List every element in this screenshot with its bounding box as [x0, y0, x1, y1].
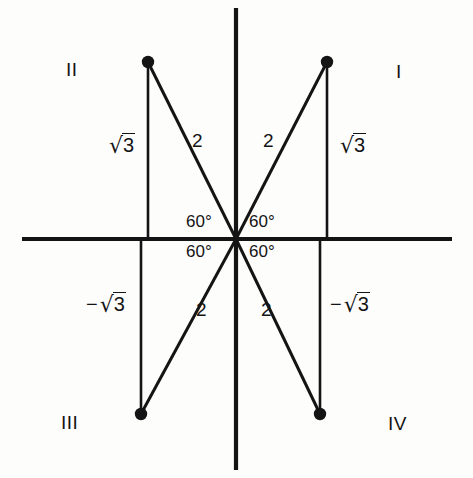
leg-label-quadrant-i: √3	[338, 133, 366, 156]
angle-label-upper-right: 60°	[249, 213, 275, 230]
radical-sign-icon: √	[344, 292, 358, 317]
hypotenuse-label-quadrant-iii: 2	[196, 300, 207, 319]
hypotenuse-label-quadrant-iv: 2	[261, 300, 272, 319]
vertex-dot-quadrant-iii	[135, 408, 147, 420]
vertex-dot-quadrant-ii	[142, 56, 154, 68]
vertex-dot-quadrant-i	[321, 56, 333, 68]
radicand-quadrant-i: 3	[353, 133, 366, 155]
radicand-quadrant-iii: 3	[113, 292, 126, 314]
radical-sign-icon: √	[109, 133, 123, 158]
radical-sign-icon: √	[340, 133, 354, 158]
radicand-quadrant-iv: 3	[357, 292, 370, 314]
hypotenuse-label-quadrant-i: 2	[263, 131, 274, 150]
leg-label-quadrant-ii: √3	[107, 133, 135, 156]
leg-label-quadrant-iii: −√3	[86, 292, 126, 315]
angle-label-lower-right: 60°	[249, 243, 275, 260]
vertex-dot-quadrant-iv	[314, 408, 326, 420]
radicand-quadrant-ii: 3	[122, 133, 135, 155]
quadrant-label-ii: II	[66, 60, 78, 79]
leg-sign-quadrant-iii: −	[86, 293, 98, 315]
quadrant-label-iii: III	[61, 413, 78, 432]
leg-sign-quadrant-iv: −	[330, 293, 342, 315]
radical-quadrant-ii: √3	[109, 133, 135, 156]
quadrant-label-i: I	[396, 62, 402, 81]
leg-label-quadrant-iv: −√3	[330, 292, 370, 315]
angle-label-upper-left: 60°	[186, 213, 212, 230]
hypotenuse-line-quadrant-iii	[141, 239, 236, 414]
geometry-figure: I II III IV 60° 60° 60° 60° 2 2 2 2 √3 √…	[0, 0, 473, 478]
radical-quadrant-iv: √3	[344, 292, 370, 315]
hypotenuse-line-quadrant-iv	[236, 239, 320, 414]
angle-label-lower-left: 60°	[186, 243, 212, 260]
radical-quadrant-i: √3	[340, 133, 366, 156]
hypotenuse-label-quadrant-ii: 2	[192, 131, 203, 150]
radical-quadrant-iii: √3	[100, 292, 126, 315]
radical-sign-icon: √	[100, 292, 114, 317]
quadrant-label-iv: IV	[388, 414, 407, 433]
